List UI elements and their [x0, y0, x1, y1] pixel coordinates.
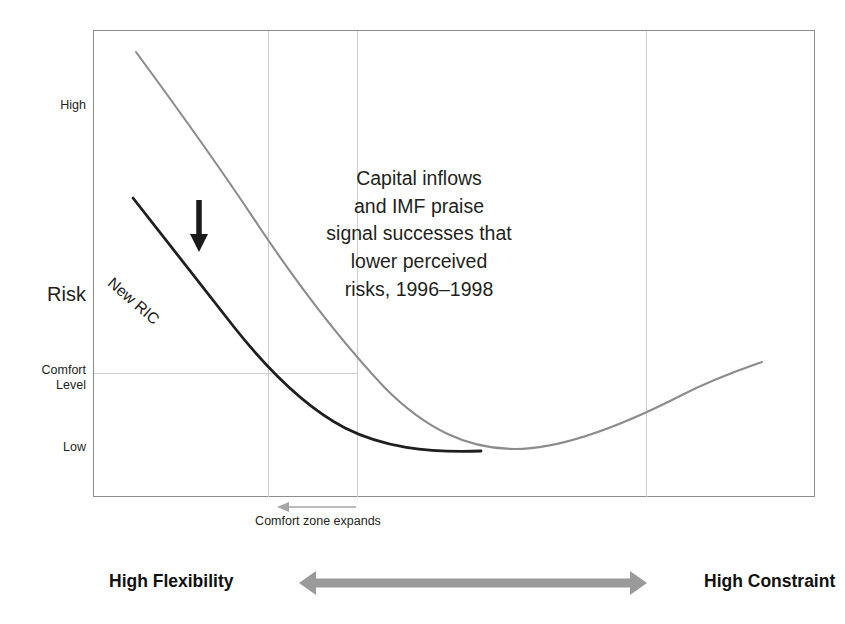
- annotation-line-2: and IMF praise: [300, 193, 538, 221]
- y-axis-title: Risk: [8, 283, 86, 306]
- comfort-zone-expands-caption: Comfort zone expands: [233, 514, 403, 528]
- annotation-line-1: Capital inflows: [300, 165, 538, 193]
- annotation-line-3: signal successes that: [300, 220, 538, 248]
- vertical-gridline-3: [646, 31, 647, 497]
- flexibility-constraint-double-arrow: [299, 571, 647, 595]
- annotation-line-4: lower perceived: [300, 248, 538, 276]
- comfort-level-gridline: [94, 373, 358, 374]
- y-axis-tick-low: Low: [8, 440, 86, 456]
- annotation-line-5: risks, 1996–1998: [300, 276, 538, 304]
- x-axis-label-high-flexibility: High Flexibility: [109, 571, 233, 592]
- capital-inflows-annotation: Capital inflows and IMF praise signal su…: [300, 165, 538, 303]
- vertical-gridline-1: [268, 31, 269, 497]
- comfort-zone-arrow: [277, 502, 356, 512]
- y-axis-tick-comfort-level: Comfort Level: [4, 363, 86, 393]
- y-axis-tick-comfort-line2: Level: [4, 378, 86, 393]
- risk-investment-curve-figure: High Comfort Level Low Risk New RIC: [0, 0, 845, 624]
- y-axis-tick-high: High: [8, 98, 86, 114]
- y-axis-tick-comfort-line1: Comfort: [4, 363, 86, 378]
- x-axis-label-high-constraint: High Constraint: [704, 571, 835, 592]
